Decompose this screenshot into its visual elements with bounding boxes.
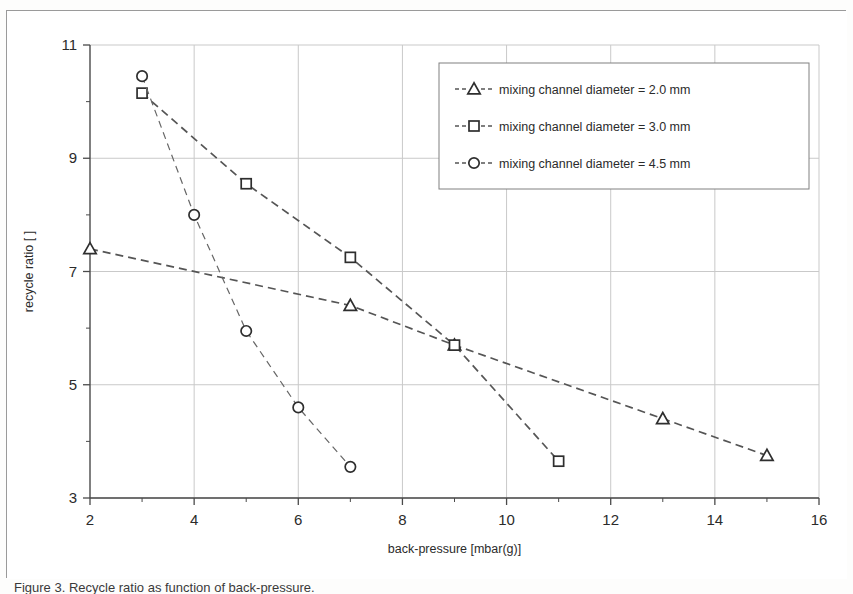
chart-frame: 246810121416357911 back-pressure [mbar(g… — [6, 10, 846, 578]
data-point-square — [450, 340, 460, 350]
figure-root: 246810121416357911 back-pressure [mbar(g… — [0, 0, 853, 594]
y-tick-label: 3 — [69, 489, 77, 506]
x-axis-title: back-pressure [mbar(g)] — [388, 542, 521, 556]
x-tick-label: 10 — [498, 511, 515, 528]
x-tick-label: 12 — [602, 511, 619, 528]
data-point-circle — [345, 462, 355, 472]
data-point-square — [137, 88, 147, 98]
y-tick-label: 9 — [69, 149, 77, 166]
y-tick-label: 5 — [69, 376, 77, 393]
y-tick-label: 7 — [69, 263, 77, 280]
x-tick-label: 6 — [294, 511, 302, 528]
chart-legend: mixing channel diameter = 2.0 mmmixing c… — [439, 63, 809, 189]
recycle-ratio-chart: 246810121416357911 back-pressure [mbar(g… — [7, 11, 847, 579]
data-point-circle — [293, 402, 303, 412]
x-tick-label: 4 — [190, 511, 198, 528]
figure-caption: Figure 3. Recycle ratio as function of b… — [14, 581, 834, 594]
legend-item-label: mixing channel diameter = 4.5 mm — [499, 157, 690, 171]
x-tick-label: 2 — [86, 511, 94, 528]
y-axis-title: recycle ratio [ ] — [22, 231, 36, 312]
y-tick-label: 11 — [61, 36, 77, 53]
data-point-circle — [241, 326, 251, 336]
data-point-square — [241, 179, 251, 189]
data-point-square — [345, 252, 355, 262]
x-tick-label: 16 — [811, 511, 828, 528]
legend-item-label: mixing channel diameter = 3.0 mm — [499, 120, 690, 134]
x-tick-label: 8 — [398, 511, 406, 528]
data-point-square — [469, 121, 479, 131]
data-point-circle — [469, 158, 479, 168]
figure-caption-text: Figure 3. Recycle ratio as function of b… — [14, 581, 834, 594]
data-point-square — [554, 456, 564, 466]
data-point-circle — [189, 210, 199, 220]
legend-item-label: mixing channel diameter = 2.0 mm — [499, 83, 690, 97]
x-tick-label: 14 — [707, 511, 724, 528]
data-point-circle — [137, 71, 147, 81]
